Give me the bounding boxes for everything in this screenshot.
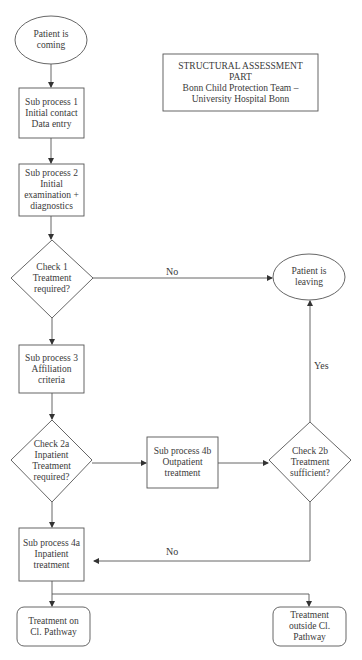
- node-sub1: Sub process 1 Initial contact Data entry: [19, 88, 84, 138]
- node-sub2: Sub process 2 Initial examination + diag…: [19, 164, 84, 216]
- edge-label-check2b-yes: Yes: [314, 360, 329, 371]
- title-line-2: PART: [229, 72, 252, 83]
- node-end-outside-line: Pathway: [293, 632, 326, 643]
- node-sub4a-line: Sub process 4a: [23, 538, 80, 549]
- node-check2a-line: Check 2a: [34, 439, 70, 450]
- node-check2a: Check 2a Inpatient Treatment required?: [11, 426, 92, 496]
- title-line-1: STRUCTURAL ASSESSMENT: [178, 61, 303, 72]
- node-check1-line: Treatment: [33, 273, 72, 284]
- node-sub4b: Sub process 4b Outpatient treatment: [147, 437, 218, 488]
- title-line-4: University Hospital Bonn: [192, 94, 290, 105]
- title-box: STRUCTURAL ASSESSMENT PART Bonn Child Pr…: [163, 54, 318, 111]
- node-sub4a: Sub process 4a Inpatient treatment: [19, 528, 84, 581]
- node-sub3-line: criteria: [38, 375, 65, 386]
- node-sub2-line: examination +: [24, 190, 79, 201]
- node-end-outside: Treatment outside Cl. Pathway: [273, 607, 346, 646]
- node-sub4a-line: treatment: [34, 560, 70, 571]
- node-sub4b-line: Outpatient: [162, 457, 202, 468]
- node-check2b-line: Treatment: [291, 457, 330, 468]
- node-leaving: Patient is leaving: [273, 254, 345, 300]
- node-check1-line: Check 1: [36, 262, 67, 273]
- node-start-line: coming: [37, 40, 66, 51]
- node-start: Patient is coming: [15, 16, 87, 64]
- title-line-3: Bonn Child Protection Team –: [183, 83, 299, 94]
- node-sub3-line: Affiliation: [32, 364, 72, 375]
- node-check2a-line: Treatment: [32, 461, 71, 472]
- node-sub4b-line: Sub process 4b: [154, 446, 212, 457]
- node-sub4b-line: treatment: [165, 468, 201, 479]
- node-end-on-line: Treatment on: [28, 616, 79, 627]
- node-sub3-line: Sub process 3: [25, 353, 78, 364]
- node-end-on: Treatment on Cl. Pathway: [17, 607, 90, 646]
- edge-sub4a-end-outside: [52, 594, 309, 606]
- node-sub2-line: Initial: [40, 179, 63, 190]
- node-leaving-line: Patient is: [291, 266, 326, 277]
- edge-label-check2b-no: No: [166, 546, 178, 557]
- node-end-outside-line: outside Cl.: [289, 621, 330, 632]
- node-check2a-line: required?: [34, 472, 70, 483]
- node-leaving-line: leaving: [295, 277, 323, 288]
- node-check2a-line: Inpatient: [35, 450, 69, 461]
- node-check2b-line: Check 2b: [292, 446, 328, 457]
- node-check2b-line: sufficient?: [290, 468, 330, 479]
- node-check2b: Check 2b Treatment sufficient?: [269, 430, 351, 494]
- node-sub3: Sub process 3 Affiliation criteria: [19, 345, 84, 393]
- node-check1: Check 1 Treatment required?: [11, 246, 93, 310]
- node-sub4a-line: Inpatient: [35, 549, 69, 560]
- edge-label-check1-no: No: [166, 266, 178, 277]
- node-end-on-line: Cl. Pathway: [30, 627, 76, 638]
- node-sub2-line: Sub process 2: [25, 168, 78, 179]
- node-sub1-line: Sub process 1: [25, 97, 78, 108]
- node-check1-line: required?: [34, 284, 70, 295]
- node-sub1-line: Data entry: [32, 119, 72, 130]
- edge-check2b-sub4a: [94, 502, 310, 561]
- node-sub2-line: diagnostics: [30, 201, 73, 212]
- node-start-line: Patient is: [33, 29, 68, 40]
- node-sub1-line: Initial contact: [25, 108, 78, 119]
- node-end-outside-line: Treatment: [290, 610, 329, 621]
